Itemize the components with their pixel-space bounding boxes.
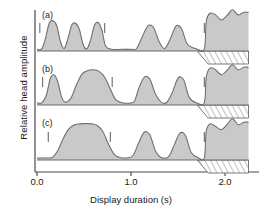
waveform-fill-c — [37, 119, 249, 160]
panel-label-b: (b) — [42, 64, 53, 74]
hatched-region-b — [197, 105, 248, 118]
y-axis-label: Relative head amplitude — [18, 18, 29, 158]
figure-container: Relative head amplitude (a) (b) (c) 0.0 … — [0, 0, 262, 215]
hatched-region-a — [197, 51, 248, 64]
hatched-region-c — [197, 160, 248, 173]
panel-c — [37, 119, 249, 173]
x-tick-label-1: 1.0 — [124, 176, 137, 187]
panel-b — [37, 65, 249, 118]
panel-label-c: (c) — [42, 118, 53, 128]
x-tick-label-0: 0.0 — [30, 176, 43, 187]
panel-label-a: (a) — [42, 10, 53, 20]
panel-a — [37, 10, 249, 64]
x-axis-label: Display duration (s) — [0, 194, 262, 205]
x-tick-label-2: 2.0 — [218, 176, 231, 187]
